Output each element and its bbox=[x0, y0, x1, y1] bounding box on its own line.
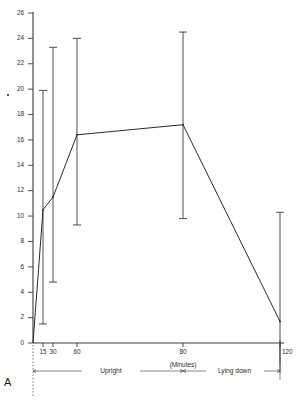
y-tick-label: 8 bbox=[8, 238, 24, 244]
x-tick-label: 60 bbox=[66, 349, 88, 355]
y-tick-label: 2 bbox=[8, 314, 24, 320]
x-tick-label: 120 bbox=[282, 349, 298, 355]
panel-label: A bbox=[4, 377, 11, 388]
y-tick-label: 26 bbox=[8, 10, 24, 16]
y-tick-label: 16 bbox=[8, 137, 24, 143]
y-tick-label: 0 bbox=[8, 340, 24, 346]
chart-canvas bbox=[0, 0, 298, 402]
error-bars bbox=[39, 32, 284, 363]
y-tick-label: 12 bbox=[8, 187, 24, 193]
phase-label-upright: Upright bbox=[82, 367, 140, 374]
y-tick-label: 20 bbox=[8, 86, 24, 92]
y-tick-label: 10 bbox=[8, 213, 24, 219]
y-tick-label: 6 bbox=[8, 264, 24, 270]
x-tick-label: 30 bbox=[42, 349, 64, 355]
axes bbox=[28, 12, 284, 373]
y-tick-label: 24 bbox=[8, 35, 24, 41]
left-edge-mark bbox=[7, 94, 9, 96]
y-tick-label: 4 bbox=[8, 289, 24, 295]
phase-label-lying-down: Lying down bbox=[206, 367, 264, 374]
x-tick-label: 80 bbox=[172, 349, 194, 355]
cut-off-header bbox=[6, 0, 186, 5]
y-tick-label: 18 bbox=[8, 111, 24, 117]
data-line bbox=[33, 124, 281, 343]
y-tick-label: 22 bbox=[8, 60, 24, 66]
y-tick-label: 14 bbox=[8, 162, 24, 168]
